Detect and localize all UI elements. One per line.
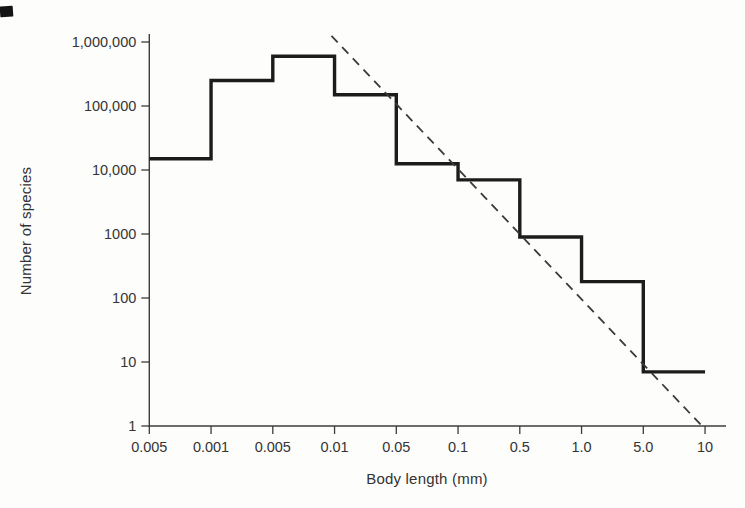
y-tick-label: 1,000,000 bbox=[72, 34, 137, 50]
x-tick-label: 0.1 bbox=[448, 439, 468, 455]
y-tick-label: 1000 bbox=[104, 226, 136, 242]
y-tick-label: 10 bbox=[120, 354, 136, 370]
x-tick-label: 10 bbox=[697, 439, 713, 455]
x-tick-label: 0.01 bbox=[320, 439, 348, 455]
x-tick-label: 1.0 bbox=[571, 439, 591, 455]
x-tick-label: 0.05 bbox=[382, 439, 410, 455]
y-axis-title: Number of species bbox=[17, 167, 34, 295]
figure-canvas: 0.0050.0010.0050.010.050.10.51.05.0101,0… bbox=[0, 0, 745, 508]
x-tick-label: 0.005 bbox=[255, 439, 291, 455]
y-tick-label: 100 bbox=[112, 290, 136, 306]
x-axis-title: Body length (mm) bbox=[366, 470, 488, 487]
x-tick-label: 0.005 bbox=[131, 439, 167, 455]
x-tick-label: 0.001 bbox=[193, 439, 229, 455]
x-tick-label: 5.0 bbox=[633, 439, 653, 455]
species-histogram-line bbox=[149, 56, 705, 372]
y-tick-label: 100,000 bbox=[84, 98, 136, 114]
y-tick-label: 10,000 bbox=[92, 162, 136, 178]
x-tick-label: 0.5 bbox=[510, 439, 530, 455]
y-tick-label: 1 bbox=[128, 418, 136, 434]
reference-dashed-line bbox=[331, 36, 702, 426]
chart-plot-area: 0.0050.0010.0050.010.050.10.51.05.0101,0… bbox=[0, 0, 745, 508]
